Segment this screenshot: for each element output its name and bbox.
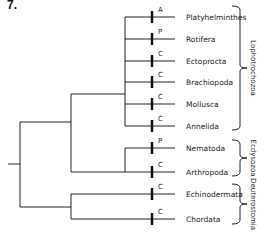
taxon-label: Nematoda [186,144,225,153]
curly-brace-icon [232,140,247,176]
body-cavity-mark: C [158,71,163,79]
taxon-chordata: CChordata [71,208,220,225]
taxon-echinodermata: CEchinodermata [71,183,243,200]
figure-number: 7. [7,0,17,12]
clade-label: Ecdysozoa [249,139,257,176]
tree-diagram: APlatyhelminthesPRotiferaCEctoproctaCBra… [0,0,265,235]
clade-ecdysozoa: Ecdysozoa [232,139,257,176]
tree-leaves: APlatyhelminthesPRotiferaCEctoproctaCBra… [71,6,246,225]
clade-label: Lophotrochozoa [249,40,257,96]
taxon-label: Mollusca [186,100,219,109]
taxon-label: Brachiopoda [186,78,233,87]
clade-label: Deuterostomia [249,178,257,230]
taxon-brachiopoda: CBrachiopoda [125,71,233,88]
taxon-annelida: CAnnelida [125,115,219,132]
taxon-label: Ectoprocta [186,57,226,66]
taxon-arthropoda: CArthropoda [125,161,228,178]
taxon-platyhelminthes: APlatyhelminthes [125,6,246,23]
clade-deuterostomia: Deuterostomia [232,178,257,230]
body-cavity-mark: C [158,208,163,216]
taxon-label: Rotifera [186,35,215,44]
taxon-label: Arthropoda [186,168,228,177]
tree-branches [8,17,125,219]
body-cavity-mark: C [158,183,163,191]
body-cavity-mark: A [158,6,163,14]
body-cavity-mark: C [158,93,163,101]
taxon-nematoda: PNematoda [125,137,225,154]
curly-brace-icon [232,6,247,130]
taxon-label: Chordata [186,215,220,224]
body-cavity-mark: P [158,137,162,145]
taxon-label: Echinodermata [186,190,243,199]
phylogenetic-tree-figure: 7. APlatyhelminthesPRotiferaCEctoproctaC… [0,0,265,235]
taxon-label: Annelida [186,122,219,131]
clade-lophotrochozoa: Lophotrochozoa [232,6,257,130]
body-cavity-mark: P [158,28,162,36]
taxon-ectoprocta: CEctoprocta [125,50,226,67]
body-cavity-mark: C [158,50,163,58]
taxon-label: Platyhelminthes [186,13,246,22]
body-cavity-mark: C [158,115,163,123]
taxon-rotifera: PRotifera [125,28,215,45]
taxon-mollusca: CMollusca [125,93,219,110]
body-cavity-mark: C [158,161,163,169]
